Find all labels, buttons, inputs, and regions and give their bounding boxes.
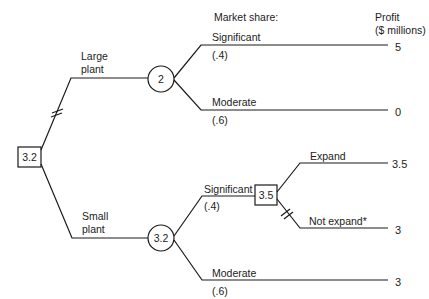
large-moderate-profit: 0	[395, 106, 401, 118]
small-moderate-probability: (.6)	[212, 285, 228, 297]
large-moderate-label: Moderate	[212, 96, 256, 108]
large-plant-branch-line	[41, 78, 148, 150]
chance-node-large-value: 2	[148, 73, 174, 85]
small-significant-probability: (.4)	[204, 200, 220, 212]
small-moderate-profit: 3	[395, 276, 401, 288]
profit-header-line2: ($ millions)	[375, 24, 426, 36]
profit-header-line1: Profit	[375, 11, 400, 23]
chance-node-small-value: 3.2	[148, 232, 174, 244]
large-significant-label: Significant	[212, 31, 260, 43]
root-decision-value: 3.2	[18, 151, 41, 163]
small-plant-label-line2: plant	[82, 223, 105, 235]
expand-label: Expand	[310, 150, 346, 162]
not-expand-profit: 3	[395, 224, 401, 236]
small-significant-label: Significant	[204, 183, 252, 195]
small-moderate-label: Moderate	[212, 267, 256, 279]
large-plant-label-line1: Large	[81, 50, 108, 62]
large-significant-profit: 5	[395, 41, 401, 53]
large-significant-probability: (.4)	[212, 49, 228, 61]
market-share-header: Market share:	[214, 11, 278, 23]
expand-profit: 3.5	[392, 158, 407, 170]
small-moderate-line	[174, 240, 388, 280]
small-plant-label-line1: Small	[82, 210, 108, 222]
expand-decision-value: 3.5	[255, 189, 277, 201]
large-significant-line	[174, 45, 388, 78]
large-moderate-probability: (.6)	[212, 114, 228, 126]
not-expand-label: Not expand*	[309, 215, 367, 227]
large-plant-label-line2: plant	[81, 63, 104, 75]
expand-line	[277, 163, 388, 192]
large-moderate-line	[174, 80, 388, 110]
decision-tree-lines	[0, 0, 429, 299]
